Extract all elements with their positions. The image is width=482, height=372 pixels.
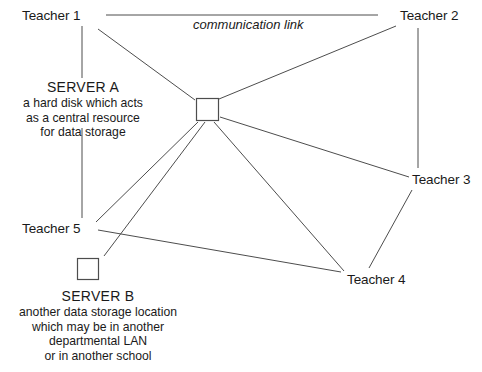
server-a-text-block: SERVER A a hard disk which acts as a cen…	[8, 79, 158, 140]
server-a-description: a hard disk which acts as a central reso…	[8, 96, 158, 140]
connection-line-teacher3-to-teacher4	[369, 190, 412, 268]
server-b-desc-line-3: departmental LAN	[2, 334, 194, 349]
connection-line-hub-to-teacher3	[220, 117, 409, 177]
server-a-title: SERVER A	[8, 79, 158, 95]
server-a-desc-line-3: for data storage	[8, 125, 158, 140]
communication-link-caption: communication link	[193, 18, 304, 33]
node-label-teacher5: Teacher 5	[22, 221, 80, 236]
connection-line-hub-to-teacher4	[214, 122, 344, 271]
server-a-node-box[interactable]	[197, 99, 219, 121]
connection-line-teacher2-to-hub	[219, 26, 396, 99]
node-label-teacher2: Teacher 2	[400, 8, 458, 23]
server-b-description: another data storage location which may …	[2, 305, 194, 363]
node-label-teacher1: Teacher 1	[22, 8, 80, 23]
network-diagram-canvas: Teacher 1 Teacher 2 Teacher 3 Teacher 4 …	[0, 0, 482, 372]
server-b-title: SERVER B	[2, 288, 194, 304]
connection-line-hub-to-serverb	[104, 122, 205, 256]
server-b-text-block: SERVER B another data storage location w…	[2, 288, 194, 363]
connection-line-teacher5-to-teacher4	[98, 230, 341, 272]
server-b-desc-line-2: which may be in another	[2, 320, 194, 335]
server-a-desc-line-1: a hard disk which acts	[8, 96, 158, 111]
server-a-desc-line-2: as a central resource	[8, 111, 158, 126]
node-label-teacher3: Teacher 3	[412, 172, 470, 187]
node-label-teacher4: Teacher 4	[347, 272, 405, 287]
server-b-desc-line-4: or in another school	[2, 349, 194, 364]
server-b-desc-line-1: another data storage location	[2, 305, 194, 320]
server-b-node-box[interactable]	[78, 259, 99, 280]
